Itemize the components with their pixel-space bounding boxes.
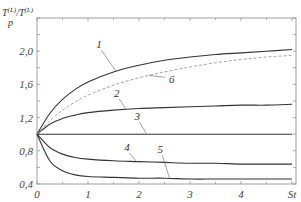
curve-label-4: 4 xyxy=(124,141,130,153)
leader-line-3 xyxy=(139,122,146,134)
line-chart: 01234St0,40,81,21,62,0T(L)/T(L)p123456 xyxy=(0,0,301,202)
y-tick-label: 0,4 xyxy=(19,178,33,190)
y-tick-label: 1,2 xyxy=(19,112,33,124)
x-tick-label: 3 xyxy=(186,188,193,200)
curve-label-5: 5 xyxy=(157,143,163,155)
leader-line-4 xyxy=(129,153,136,162)
curve-2 xyxy=(37,104,292,134)
curve-label-3: 3 xyxy=(133,110,140,122)
leader-line-5 xyxy=(162,155,169,178)
y-tick-label: 0,8 xyxy=(19,145,33,157)
y-tick-label: 2,0 xyxy=(19,45,33,57)
y-axis-title: T(L)/T(L) xyxy=(2,6,34,18)
leader-line-2 xyxy=(119,99,126,109)
leader-line-1 xyxy=(101,50,116,71)
x-tick-label: 4 xyxy=(238,188,244,200)
curve-1 xyxy=(37,50,292,135)
curves xyxy=(37,50,292,180)
x-tick-label: 2 xyxy=(136,188,142,200)
curve-label-1: 1 xyxy=(96,38,102,50)
x-tick-label: 1 xyxy=(85,188,91,200)
labels: 01234St0,40,81,21,62,0T(L)/T(L)p123456 xyxy=(2,6,297,200)
y-tick-label: 1,6 xyxy=(19,78,33,90)
curve-label-2: 2 xyxy=(114,87,120,99)
curve-4 xyxy=(37,134,292,164)
curve-label-6: 6 xyxy=(169,73,175,85)
curve-5 xyxy=(37,134,292,179)
x-tick-label: St xyxy=(288,188,298,200)
curve-6 xyxy=(37,55,292,134)
x-tick-label: 0 xyxy=(34,188,40,200)
y-axis-subscript: p xyxy=(7,17,13,28)
leader-line-6 xyxy=(149,75,165,77)
